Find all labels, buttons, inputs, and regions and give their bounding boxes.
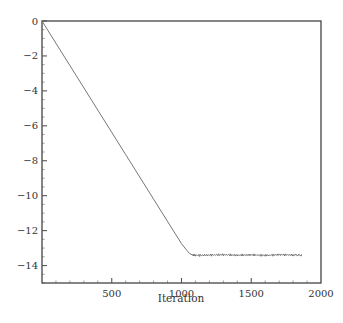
x-axis-label: Iteration [158, 292, 205, 304]
x-tick-label: 1500 [239, 288, 264, 299]
y-tick-label: −6 [23, 120, 38, 131]
y-tick-label: −2 [23, 50, 38, 61]
data-series [42, 21, 302, 257]
y-tick-label: −10 [17, 190, 38, 201]
y-tick-label: 0 [32, 16, 38, 27]
y-tick-label: −14 [17, 260, 38, 271]
x-tick-label: 500 [102, 288, 121, 299]
y-tick-label: −4 [23, 85, 38, 96]
convergence-chart: 500100015002000 0−2−4−6−8−10−12−14 Itera… [0, 0, 343, 323]
y-tick-label: −12 [17, 225, 38, 236]
y-tick-label: −8 [23, 155, 38, 166]
x-tick-label: 2000 [308, 288, 333, 299]
series-line [42, 21, 302, 257]
